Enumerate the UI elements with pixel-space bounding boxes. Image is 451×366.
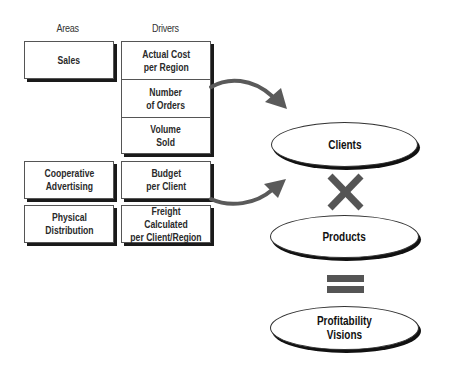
ellipse-clients: Clients (271, 122, 418, 167)
ellipse-products: Products (270, 215, 419, 258)
equals-icon (327, 275, 364, 293)
multiply-icon (330, 176, 361, 208)
ellipse-label: Clients (328, 138, 361, 152)
arrow-icon-bottom (211, 179, 286, 204)
ellipse-label: Profitability Visions (317, 314, 372, 342)
ellipse-label: Products (323, 230, 366, 244)
ellipse-profitability-visions: Profitability Visions (270, 306, 419, 350)
arrow-icon-top (211, 81, 287, 109)
